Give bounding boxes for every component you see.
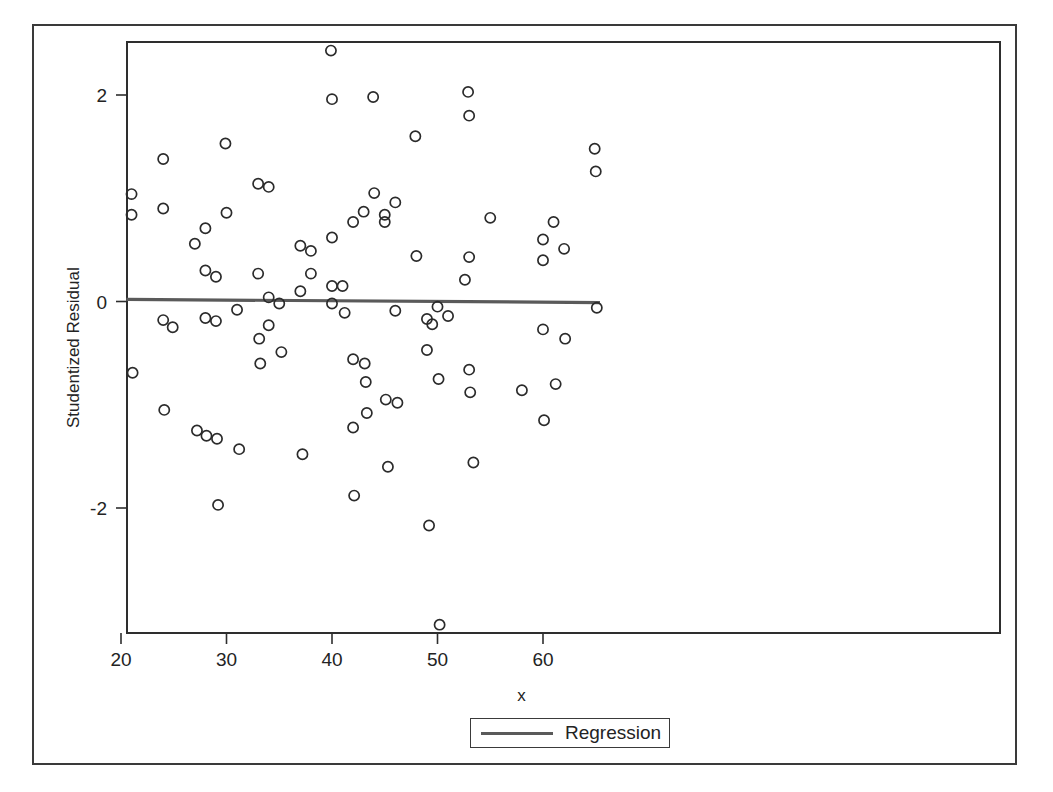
x-tick-label: 60 xyxy=(532,649,553,670)
x-tick-label: 50 xyxy=(427,649,448,670)
plot-frame xyxy=(127,42,1000,633)
y-tick-label: -2 xyxy=(90,498,107,519)
legend: Regression xyxy=(470,718,670,748)
y-axis-label-text: Studentized Residual xyxy=(64,267,84,428)
y-axis-label: Studentized Residual xyxy=(44,200,68,430)
scatter-plot: 2030405060 20-2 xyxy=(0,0,1053,792)
y-axis-ticks: 20-2 xyxy=(90,85,127,519)
x-axis-label-text: x xyxy=(517,686,526,705)
figure-root: 2030405060 20-2 Studentized Residual x R… xyxy=(0,0,1053,792)
legend-label-regression: Regression xyxy=(565,722,661,744)
x-tick-label: 30 xyxy=(216,649,237,670)
x-axis-label: x xyxy=(0,686,1053,706)
legend-line-swatch xyxy=(481,732,553,735)
y-tick-label: 2 xyxy=(96,85,107,106)
x-tick-label: 20 xyxy=(110,649,131,670)
x-axis-ticks: 2030405060 xyxy=(110,633,553,670)
x-tick-label: 40 xyxy=(321,649,342,670)
y-tick-label: 0 xyxy=(96,292,107,313)
